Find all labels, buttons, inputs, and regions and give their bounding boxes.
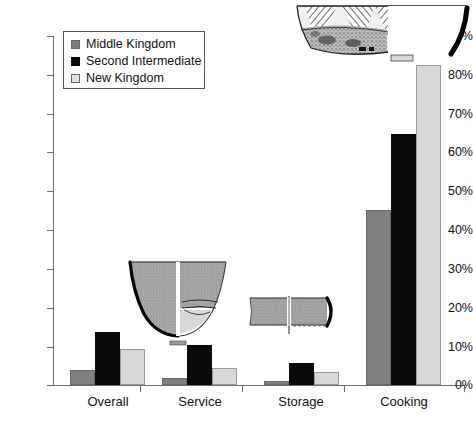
bar-service-second-intermediate xyxy=(187,345,212,385)
y-tick-10 xyxy=(47,347,54,348)
y-tick-80 xyxy=(47,75,54,76)
x-tick-2 xyxy=(242,386,243,392)
y-tick-30 xyxy=(47,269,54,270)
legend-label-second-intermediate: Second Intermediate xyxy=(86,55,201,68)
bar-service-new-kingdom xyxy=(212,368,237,385)
bar-cooking-second-intermediate xyxy=(391,134,416,385)
y-tick-0 xyxy=(47,385,54,386)
y-tick-90 xyxy=(47,36,54,37)
bar-storage-middle-kingdom xyxy=(264,381,289,385)
bar-storage-new-kingdom xyxy=(314,372,339,385)
x-tick-3 xyxy=(344,386,345,392)
legend-label-new-kingdom: New Kingdom xyxy=(86,72,164,85)
y-tick-40 xyxy=(47,230,54,231)
y-axis-line xyxy=(53,36,54,386)
x-axis-label-service: Service xyxy=(152,394,248,409)
cooking-vessel-drawing xyxy=(291,0,473,62)
bar-storage-second-intermediate xyxy=(289,363,314,385)
x-tick-4 xyxy=(464,386,465,392)
bar-overall-middle-kingdom xyxy=(70,370,95,385)
bar-chart: 90% 80% 70% 60% 50% 40% 30% 20% 10% 0% O… xyxy=(0,0,473,424)
bar-cooking-middle-kingdom xyxy=(366,210,391,385)
chart-legend: Middle Kingdom Second Intermediate New K… xyxy=(63,31,205,89)
service-vessel-drawing xyxy=(126,258,230,346)
y-tick-70 xyxy=(47,114,54,115)
x-tick-1 xyxy=(140,386,141,392)
x-axis-label-cooking: Cooking xyxy=(356,394,452,409)
bar-cooking-new-kingdom xyxy=(416,65,441,385)
swatch-second-intermediate-icon xyxy=(71,57,80,66)
y-tick-20 xyxy=(47,308,54,309)
y-tick-50 xyxy=(47,191,54,192)
legend-item-second-intermediate: Second Intermediate xyxy=(71,53,198,70)
bar-overall-new-kingdom xyxy=(120,349,145,385)
swatch-new-kingdom-icon xyxy=(71,74,80,83)
x-axis-label-storage: Storage xyxy=(253,394,349,409)
x-axis-label-overall: Overall xyxy=(58,394,158,409)
y-tick-60 xyxy=(47,152,54,153)
bar-overall-second-intermediate xyxy=(95,332,120,385)
legend-label-middle-kingdom: Middle Kingdom xyxy=(86,38,176,51)
swatch-middle-kingdom-icon xyxy=(71,40,80,49)
legend-item-new-kingdom: New Kingdom xyxy=(71,70,198,87)
bar-service-middle-kingdom xyxy=(162,378,187,385)
storage-vessel-drawing xyxy=(247,295,343,335)
x-axis-line xyxy=(53,385,465,386)
legend-item-middle-kingdom: Middle Kingdom xyxy=(71,36,198,53)
